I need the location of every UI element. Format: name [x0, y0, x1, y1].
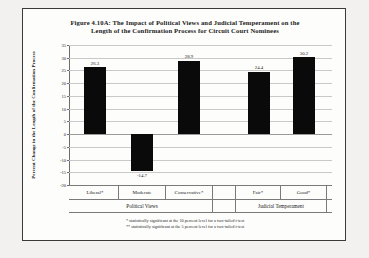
y-axis-tick-label: 5: [64, 119, 66, 124]
group-label: Judicial Temperament: [236, 200, 327, 212]
gridline: [69, 172, 332, 173]
y-axis-tick-mark: [67, 121, 70, 122]
figure-frame: Figure 4.10A: The Impact of Political Vi…: [22, 8, 346, 241]
y-axis-tick-label: 25: [61, 68, 66, 73]
bar-value-label: 26.3: [91, 61, 99, 66]
category-label: Conservative*: [166, 186, 213, 199]
figure-title-line-2: Length of the Confirmation Process for C…: [43, 27, 327, 35]
footnote-two-star: ** statistically significant at the 5 pe…: [53, 224, 317, 230]
y-axis-tick-mark: [67, 147, 70, 148]
y-axis-tick-mark: [67, 109, 70, 110]
category-label: Fair*: [236, 186, 281, 199]
bar: [131, 134, 153, 171]
y-axis-tick-label: 15: [61, 93, 66, 98]
plot-area: 35302520151050-5-10-15-20 26.3-14.728.92…: [69, 45, 332, 185]
group-axis: Political ViewsJudicial Temperament: [69, 200, 332, 213]
y-axis-tick-mark: [67, 160, 70, 161]
y-axis-tick-mark: [67, 172, 70, 173]
y-axis-tick-mark: [67, 45, 70, 46]
figure-title-line-1: Figure 4.10A: The Impact of Political Vi…: [43, 19, 327, 27]
y-axis-tick-label: 0: [64, 132, 66, 137]
y-axis-tick-mark: [67, 70, 70, 71]
figure-title: Figure 4.10A: The Impact of Political Vi…: [43, 19, 327, 36]
category-label: Moderate: [119, 186, 166, 199]
y-axis-title: Percent Change in the Length of the Conf…: [31, 45, 41, 185]
y-axis-tick-mark: [67, 134, 70, 135]
y-axis-tick-mark: [67, 96, 70, 97]
y-axis-tick-label: -10: [60, 157, 66, 162]
category-label: Liberal*: [72, 186, 119, 199]
category-axis: Liberal*ModerateConservative*Fair*Good*: [69, 185, 332, 200]
y-axis-tick-label: 10: [61, 106, 66, 111]
bar: [248, 72, 270, 134]
gridline: [69, 134, 332, 135]
bar-value-label: 28.9: [185, 54, 193, 59]
y-axis-tick-label: 35: [61, 43, 66, 48]
category-label: Good*: [281, 186, 327, 199]
gridline: [69, 160, 332, 161]
category-spacer: [213, 186, 236, 199]
y-axis-tick-label: -15: [60, 170, 66, 175]
y-axis-tick-mark: [67, 58, 70, 59]
group-label: Political Views: [72, 200, 213, 212]
y-axis-tick-label: -5: [62, 144, 66, 149]
bar-value-label: -14.7: [137, 173, 147, 178]
y-axis-tick-mark: [67, 83, 70, 84]
bar: [84, 67, 106, 134]
bar-value-label: 24.4: [255, 65, 263, 70]
y-axis-tick-label: 20: [61, 81, 66, 86]
gridline: [69, 147, 332, 148]
y-axis-tick-label: 30: [61, 55, 66, 60]
gridline: [69, 45, 332, 46]
bar: [293, 57, 315, 134]
bar-value-label: 30.2: [300, 51, 308, 56]
footnotes: * statistically significant at the 10 pe…: [53, 218, 317, 229]
y-axis-tick-label: -20: [60, 183, 66, 188]
group-spacer: [213, 200, 236, 212]
bar: [178, 61, 200, 135]
